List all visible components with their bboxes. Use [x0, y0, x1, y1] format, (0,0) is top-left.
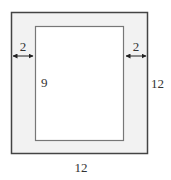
outer-width-label: 12 — [75, 160, 88, 175]
left-margin-label: 2 — [20, 39, 27, 54]
right-margin-label: 2 — [133, 39, 140, 54]
inner-rectangle — [36, 27, 124, 141]
frame-diagram: 2 2 9 12 12 — [0, 0, 171, 180]
outer-height-label: 12 — [151, 76, 164, 91]
inner-height-label: 9 — [41, 75, 48, 90]
